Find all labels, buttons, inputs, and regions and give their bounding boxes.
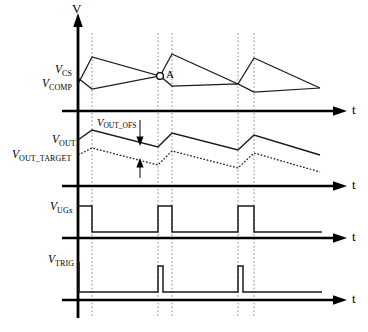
label-vout-target-main: V bbox=[12, 148, 19, 160]
trace-vtrig bbox=[79, 262, 322, 292]
label-vout-target: VOUT_TARGET bbox=[12, 149, 71, 161]
trace-vcomp bbox=[78, 76, 320, 92]
timing-diagram: V t t t t VCS VCOMP A VOUT VOUT_TARGET V… bbox=[0, 0, 368, 332]
panel-vout bbox=[62, 120, 347, 191]
label-vcs-sub: CS bbox=[62, 69, 72, 78]
trace-vout bbox=[78, 130, 320, 155]
time-axis-2-arrowhead bbox=[333, 181, 347, 190]
t-axis-label-2: t bbox=[352, 178, 356, 191]
panel-trig bbox=[62, 262, 347, 305]
trace-vugx bbox=[78, 206, 322, 232]
panel-ugx bbox=[62, 206, 347, 243]
label-vout-target-sub: OUT_TARGET bbox=[19, 154, 71, 163]
label-vtrig-sub: TRIG bbox=[55, 259, 74, 268]
label-vugx-main: V bbox=[50, 200, 57, 212]
label-vcs-main: V bbox=[55, 63, 62, 75]
panel-cs-comp bbox=[62, 54, 347, 116]
label-vcomp-main: V bbox=[42, 77, 49, 89]
marker-a-label: A bbox=[166, 69, 174, 80]
t-axis-label-1: t bbox=[352, 103, 356, 116]
label-vout-main: V bbox=[52, 133, 59, 145]
t-axis-label-3: t bbox=[352, 230, 356, 243]
label-vtrig: VTRIG bbox=[48, 254, 74, 266]
time-axis-4-arrowhead bbox=[333, 295, 347, 304]
vertical-axis bbox=[73, 13, 83, 318]
trace-vout-target bbox=[78, 148, 320, 172]
label-vcs: VCS bbox=[55, 64, 72, 76]
label-vout-ofs: VOUT_OFS bbox=[97, 118, 136, 129]
offset-annotation bbox=[136, 120, 143, 178]
time-axis-3-arrowhead bbox=[333, 233, 347, 242]
t-axis-label-4: t bbox=[352, 292, 356, 305]
label-vout-ofs-sub: OUT_OFS bbox=[103, 121, 136, 130]
label-vtrig-main: V bbox=[48, 253, 55, 265]
v-axis-label: V bbox=[72, 2, 81, 15]
label-vcomp: VCOMP bbox=[42, 78, 72, 90]
marker-point-a bbox=[157, 73, 164, 80]
trace-vcs bbox=[78, 54, 320, 88]
label-vout-sub: OUT bbox=[59, 139, 76, 148]
label-vugx: VUGx bbox=[50, 201, 73, 213]
time-axis-1-arrowhead bbox=[333, 106, 347, 115]
label-vugx-sub: UGx bbox=[57, 206, 73, 215]
waveform-canvas bbox=[0, 0, 368, 332]
label-vout: VOUT bbox=[52, 134, 76, 146]
label-vcomp-sub: COMP bbox=[49, 83, 72, 92]
